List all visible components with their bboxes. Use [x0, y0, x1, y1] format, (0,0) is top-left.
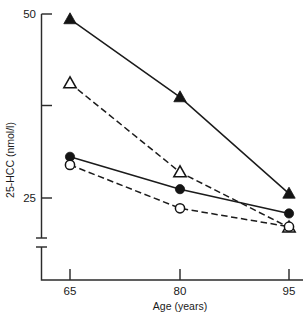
- y-tick-label-25: 25: [23, 192, 36, 204]
- y-tick-label-50: 50: [23, 8, 36, 20]
- data-point-filled-circle-95: [284, 209, 293, 218]
- data-point-open-circle-65: [65, 160, 74, 169]
- series-layer: [64, 13, 295, 232]
- data-point-filled-circle-80: [175, 185, 184, 194]
- data-point-open-triangle-80: [174, 166, 186, 177]
- chart-canvas: 50 25 25-HCC (nmol/l) 65 80 95 Age (year…: [0, 0, 303, 314]
- x-tick-label-80: 80: [174, 285, 187, 297]
- data-point-open-circle-95: [284, 222, 293, 231]
- x-tick-label-65: 65: [64, 285, 77, 297]
- x-axis-title: Age (years): [153, 300, 207, 312]
- data-point-filled-triangle-80: [174, 91, 186, 102]
- y-axis: 50 25 25-HCC (nmol/l): [4, 8, 303, 280]
- data-point-filled-triangle-65: [64, 13, 76, 24]
- y-axis-spine-lower: [42, 247, 304, 280]
- x-tick-label-95: 95: [283, 285, 296, 297]
- y-axis-title: 25-HCC (nmol/l): [4, 122, 16, 198]
- chart-figure: 50 25 25-HCC (nmol/l) 65 80 95 Age (year…: [0, 0, 303, 314]
- x-axis: 65 80 95 Age (years): [64, 269, 296, 312]
- data-point-open-triangle-65: [64, 77, 76, 88]
- data-point-open-circle-80: [175, 204, 184, 213]
